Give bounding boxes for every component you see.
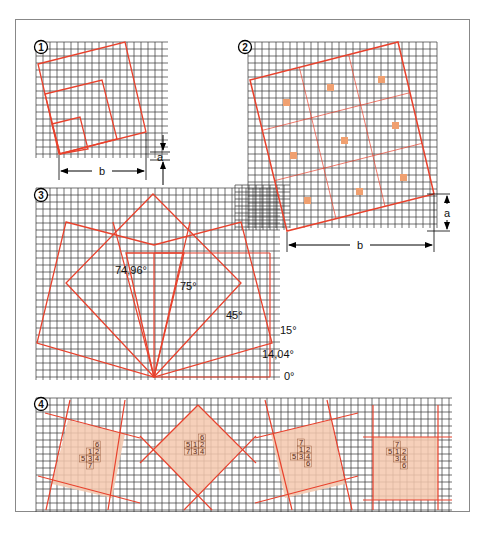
panel-4-badge-label: 4 (38, 399, 44, 410)
panel-2-marker-3 (290, 152, 297, 159)
panel-2-marker-7 (356, 188, 363, 195)
panel-4-num-5: 5 (388, 447, 392, 456)
panel-2-marker-4 (341, 137, 348, 144)
panel-4-num-6: 6 (402, 461, 406, 470)
panel-3-ray-right (154, 222, 190, 377)
panel-3-label-15: 15° (280, 324, 297, 336)
panel-4-num-4: 4 (200, 447, 204, 456)
panel-3-label-45: 45° (226, 309, 243, 321)
panel-4-num-7: 7 (88, 461, 92, 470)
panel-2-marker-5 (392, 122, 399, 129)
panel-3-label-74-96: 74,96° (115, 264, 147, 276)
panel-4-num-3: 3 (299, 452, 303, 461)
panel-4-num-3: 3 (193, 447, 197, 456)
panel-2-badge-label: 2 (242, 42, 248, 53)
panel-2-marker-8 (400, 174, 407, 181)
panel-1-label-a: a (157, 151, 164, 163)
panel-2-marker-1 (327, 84, 334, 91)
panel-4-num-4: 4 (95, 454, 99, 463)
panel-3-label-0: 0° (284, 370, 295, 382)
panel-4-num-7: 7 (186, 447, 190, 456)
panel-3-label-75: 75° (180, 280, 197, 292)
panel-3-label-14-04: 14,04° (262, 348, 294, 360)
panel-2-label-a: a (444, 207, 451, 219)
panel-4-num-5: 5 (292, 452, 296, 461)
panel-3-badge-label: 3 (38, 190, 44, 201)
panel-1-label-b: b (99, 165, 105, 177)
panel-2-label-b: b (357, 239, 363, 251)
panel-2-marker-2 (378, 76, 385, 83)
panel-4-num-6: 6 (306, 459, 310, 468)
panel-2-marker-6 (304, 197, 311, 204)
panel-4-num-3: 3 (395, 454, 399, 463)
panel-2-marker-0 (283, 99, 290, 106)
diagram-canvas: 1ab2ab74,96°75°45°15°14,04°0°36125347651… (0, 0, 478, 552)
panel-1-badge-label: 1 (38, 42, 44, 53)
panel-4-num-5: 5 (81, 454, 85, 463)
